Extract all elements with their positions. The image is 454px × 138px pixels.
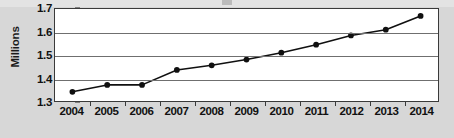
gridline [55,33,438,34]
y-axis-title: Millions [9,12,21,82]
x-tick-label: 2010 [270,105,294,117]
y-tick-label: 1.7 [37,2,52,14]
data-point [278,50,284,56]
data-point [70,89,76,95]
data-point [418,13,424,19]
y-tick-label: 1.3 [37,96,52,108]
data-point [104,82,110,88]
data-point [174,67,180,73]
data-point [313,42,319,48]
y-tick-label: 1.5 [37,49,52,61]
x-tick-label: 2009 [235,105,259,117]
x-tick-label: 2008 [200,105,224,117]
x-tick-label: 2005 [95,105,119,117]
series-markers [70,13,424,95]
x-tick-label: 2011 [305,105,328,117]
x-tick-label: 2004 [60,105,84,117]
x-tick-label: 2006 [130,105,154,117]
series-line-millions [55,9,438,101]
x-tick-label: 2012 [340,105,364,117]
gridline [55,80,438,81]
x-tick-label: 2007 [165,105,189,117]
data-point [139,82,145,88]
y-tick-label: 1.4 [37,73,52,85]
line-chart: Millions 1.31.41.51.61.7 200420052006200… [0,0,454,138]
data-point [244,57,250,63]
title-fragment-remnant [222,0,232,5]
gridline [55,56,438,57]
plot-area [54,8,439,102]
y-axis-tick-labels: 1.31.41.51.61.7 [26,8,52,102]
x-tick-label: 2013 [375,105,399,117]
x-axis-tick-labels: 2004200520062007200820092010201120122013… [54,104,439,122]
data-point [209,63,215,69]
x-tick-label: 2014 [410,105,434,117]
y-tick-label: 1.6 [37,26,52,38]
